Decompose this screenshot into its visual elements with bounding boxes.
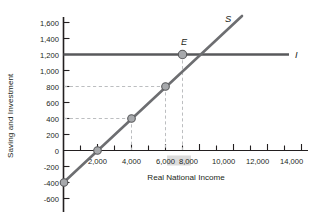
ytick-label: 1,600 xyxy=(40,19,59,28)
y-axis-tick-labels: 1,600 1,400 1,200 1,000 800 600 400 200 … xyxy=(40,19,59,204)
ytick-label: -200 xyxy=(44,163,59,172)
investment-curve-label: I xyxy=(295,49,298,60)
xtick-label: 12,000 xyxy=(246,157,269,166)
equilibrium-point-marker xyxy=(178,50,186,58)
ytick-label: 800 xyxy=(46,83,59,92)
ytick-label: 0 xyxy=(55,147,59,156)
data-point-marker xyxy=(94,147,102,155)
y-axis-title: Saving and Investment xyxy=(6,73,15,158)
data-point-marker xyxy=(162,83,170,91)
guide-lines xyxy=(64,55,183,151)
saving-investment-chart: Saving and Investment 1,600 1 xyxy=(0,0,313,221)
data-point-marker xyxy=(128,115,136,123)
xtick-label-highlighted: 8,000 xyxy=(179,157,198,166)
ytick-label: 400 xyxy=(46,115,59,124)
saving-curve-label: S xyxy=(225,13,232,24)
xtick-label: 10,000 xyxy=(212,157,235,166)
ytick-label: 1,400 xyxy=(40,35,59,44)
equilibrium-label: E xyxy=(181,37,188,47)
x-axis-tick-labels: 2,000 4,000 6,000 8,000 10,000 12,000 14… xyxy=(88,157,303,166)
ytick-label: -600 xyxy=(44,195,59,204)
ytick-label: -400 xyxy=(44,179,59,188)
data-point-marker xyxy=(60,179,68,187)
chart-canvas: Saving and Investment 1,600 1 xyxy=(0,0,313,221)
ytick-label: 1,000 xyxy=(40,67,59,76)
y-axis-ticks xyxy=(64,23,70,199)
ytick-label: 200 xyxy=(46,131,59,140)
x-axis-title: Real National Income xyxy=(147,173,225,182)
ytick-label: 600 xyxy=(46,99,59,108)
xtick-label: 4,000 xyxy=(122,157,141,166)
xtick-label: 6,000 xyxy=(156,157,175,166)
ytick-label: 1,200 xyxy=(40,51,59,60)
xtick-label: 14,000 xyxy=(280,157,303,166)
x-axis-ticks xyxy=(81,144,302,151)
